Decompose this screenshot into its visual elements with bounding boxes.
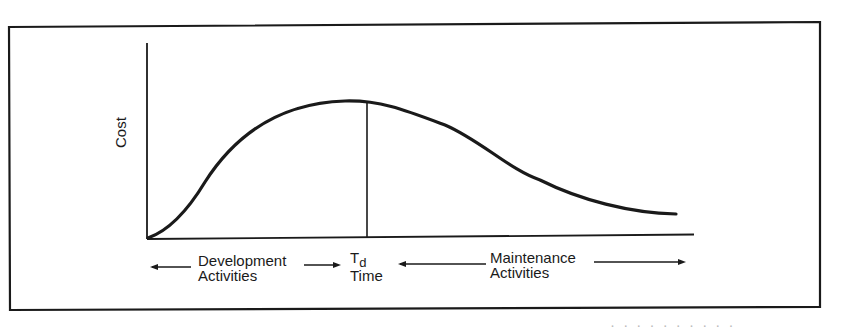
maintenance-label-line2: Activities [490, 265, 549, 280]
development-right-arrow [304, 262, 341, 268]
cut-off-caption: · · · · · · · · · · [610, 316, 735, 331]
y-axis-label: Cost [112, 117, 129, 148]
development-left-arrow [150, 264, 191, 270]
cost-curve [148, 101, 676, 238]
x-axis-label: Time [350, 268, 383, 283]
maintenance-right-arrow [594, 259, 686, 265]
td-marker-label: Td [350, 250, 366, 266]
development-label-line1: Development [198, 253, 286, 268]
frame-border [9, 22, 820, 310]
maintenance-label-line1: Maintenance [490, 250, 576, 265]
x-axis [147, 235, 694, 240]
td-marker-letter: T [350, 249, 359, 266]
development-label-line2: Activities [198, 268, 257, 283]
maintenance-left-arrow [398, 261, 486, 267]
